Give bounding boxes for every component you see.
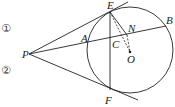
label-f: F (104, 94, 112, 106)
geometry-diagram: P A B C E F N O ① ② (0, 0, 175, 107)
marker-2: ② (1, 64, 11, 77)
secant-line-pb (29, 26, 166, 54)
label-p: P (21, 48, 29, 60)
label-b: B (166, 14, 173, 26)
label-n: N (127, 22, 136, 34)
tangent-line-pf (29, 54, 138, 100)
label-c: C (112, 38, 120, 50)
label-e: E (106, 0, 114, 11)
segment-no (127, 35, 130, 52)
marker-1: ① (1, 22, 11, 35)
segment-en (110, 12, 127, 35)
label-o: O (127, 53, 135, 65)
label-a: A (80, 32, 88, 44)
